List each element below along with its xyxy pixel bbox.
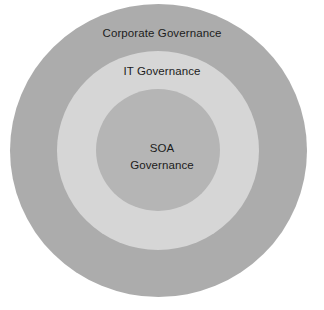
governance-diagram: Corporate Governance IT Governance SOA G… (0, 0, 324, 310)
inner-circle-soa-governance (96, 89, 220, 211)
